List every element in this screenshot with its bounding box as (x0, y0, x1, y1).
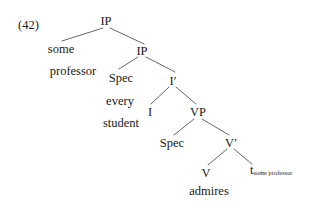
branch-vp-to-v-bar (202, 119, 229, 135)
branch-vp-to-spec (174, 119, 194, 135)
node-v-bar: V′ (225, 137, 237, 150)
node-vp: VP (190, 106, 206, 119)
terminal-professor: professor (50, 65, 97, 78)
branch-ip-top-to-some-professor (62, 28, 103, 41)
branch-i-bar-to-i (151, 87, 169, 104)
example-number: (42) (18, 19, 39, 32)
branch-ip-lower-to-spec (119, 57, 138, 69)
branch-ip-top-to-ip-lower (110, 28, 144, 44)
terminal-some: some (48, 43, 74, 56)
node-v-head: V (201, 167, 210, 180)
trace-subscript: some professor (253, 169, 292, 176)
terminal-every: every (106, 95, 134, 108)
terminal-student: student (103, 117, 139, 130)
branch-v-bar-to-v (208, 149, 227, 165)
node-i-head: I (148, 106, 152, 119)
node-i-bar: I′ (170, 75, 177, 88)
branch-ip-lower-to-i-bar (146, 57, 175, 72)
node-ip-top: IP (100, 15, 111, 28)
node-spec-vp: Spec (160, 137, 184, 150)
branch-v-bar-to-trace (234, 149, 252, 164)
syntax-tree-figure: (42) IP IP Spec I′ I VP Spec V′ V some p… (0, 0, 319, 207)
terminal-admires: admires (189, 185, 229, 198)
node-ip-lower: IP (136, 45, 147, 58)
branch-i-bar-to-vp (176, 87, 196, 104)
node-spec-ip: Spec (109, 72, 133, 85)
trace-some-professor: tsome professor (250, 164, 293, 177)
